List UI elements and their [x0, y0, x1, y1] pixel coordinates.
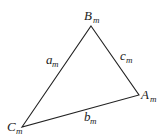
triangle-diagram: B m A m C m a m b m c m: [0, 0, 164, 135]
svg-text:m: m: [52, 59, 59, 69]
svg-text:B: B: [84, 8, 92, 23]
svg-text:C: C: [7, 119, 16, 134]
svg-text:m: m: [93, 15, 100, 25]
svg-text:m: m: [150, 94, 157, 104]
side-label-b: b m: [84, 109, 97, 126]
vertex-label-a: A m: [140, 87, 157, 104]
svg-text:m: m: [90, 116, 97, 126]
vertex-label-b: B m: [84, 8, 100, 25]
svg-text:A: A: [140, 87, 149, 102]
side-label-c: c m: [120, 48, 133, 65]
triangle-shape: [22, 26, 139, 127]
side-label-a: a m: [46, 52, 59, 69]
svg-text:m: m: [16, 126, 23, 135]
svg-text:m: m: [126, 55, 133, 65]
vertex-label-c: C m: [7, 119, 23, 135]
